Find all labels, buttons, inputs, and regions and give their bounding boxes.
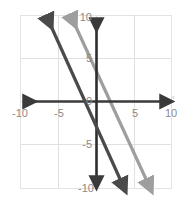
coordinate-plane-screenshot: -10 -5 5 10 10 5 -5 -10 0 x [0, 0, 186, 207]
y-tick-label-neg10: -10 [78, 182, 94, 194]
x-tick-labels: -10 -5 5 10 [12, 107, 177, 119]
x-axis-name-group: x [172, 94, 175, 100]
origin-label-group: 0 [86, 95, 92, 107]
y-tick-label-10: 10 [80, 11, 92, 23]
coordinate-plane-chart: -10 -5 5 10 10 5 -5 -10 0 x [0, 0, 186, 207]
origin-label: 0 [86, 95, 92, 107]
x-tick-label-neg5: -5 [54, 107, 64, 119]
x-tick-label-5: 5 [132, 107, 138, 119]
x-axis-name: x [172, 94, 175, 100]
x-tick-label-10: 10 [165, 107, 177, 119]
y-tick-label-5: 5 [86, 52, 92, 64]
y-tick-label-neg5: -5 [82, 138, 92, 150]
x-tick-label-neg10: -10 [12, 107, 28, 119]
